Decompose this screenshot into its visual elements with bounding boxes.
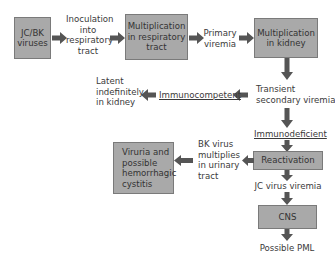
arrow-right-icon [110, 32, 125, 44]
latent-line2: indefinitely [96, 87, 144, 98]
arrow-left-icon [242, 155, 254, 166]
immunocompetent-text: Immunocompetent [159, 90, 241, 100]
primary-viremia-label: Primary viremia [203, 28, 237, 49]
inoculation-line4: tract [66, 46, 110, 57]
viruria-line1: Viruria and [122, 147, 176, 158]
inoculation-label: Inoculation into respiratory tract [66, 14, 110, 56]
viruria-line4: cystitis [122, 179, 176, 190]
transient-viremia-label: Transient secondary viremia [256, 84, 335, 105]
bk-line2: multiplies [198, 150, 240, 161]
transient-line2: secondary viremia [256, 95, 335, 106]
jc-viremia-label: JC virus viremia [251, 181, 325, 192]
mult-resp-line1: Multiplication [128, 21, 186, 32]
bk-multiplies-label: BK virus multiplies in urinary tract [198, 139, 240, 181]
arrow-left-icon [174, 155, 193, 166]
inoculation-line1: Inoculation [66, 14, 110, 25]
bk-line1: BK virus [198, 139, 240, 150]
multiplication-respiratory-box: Multiplication in respiratory tract [125, 14, 188, 60]
primary-viremia-line2: viremia [203, 39, 237, 50]
jcbk-viruses-box: JC/BK viruses [14, 17, 51, 59]
viruria-line3: hemorrhagic [122, 168, 176, 179]
mult-kidney-line1: Multiplication [257, 28, 315, 39]
bk-line4: tract [198, 171, 240, 182]
arrow-down-icon [281, 108, 293, 128]
inoculation-line2: into [66, 25, 110, 36]
arrow-down-icon [281, 229, 293, 241]
pml-text: Possible PML [260, 243, 315, 253]
latent-line3: in kidney [96, 97, 144, 108]
transient-line1: Transient [256, 84, 335, 95]
bk-line3: in urinary [198, 160, 240, 171]
cns-box: CNS [258, 205, 317, 229]
arrow-right-icon [52, 32, 67, 44]
arrow-down-icon [281, 192, 293, 205]
mult-resp-line2: in respiratory [128, 32, 186, 43]
viruria-line2: possible [122, 158, 176, 169]
immunocompetent-label: Immunocompetent [159, 90, 241, 101]
arrow-down-icon [281, 58, 293, 80]
reactivation-text: Reactivation [261, 155, 314, 166]
immunodeficient-label: Immunodeficient [254, 129, 327, 140]
latent-label: Latent indefinitely in kidney [96, 76, 144, 108]
jcbk-line2: viruses [17, 38, 48, 49]
multiplication-kidney-box: Multiplication in kidney [254, 18, 318, 58]
primary-viremia-line1: Primary [203, 28, 237, 39]
jcbk-line1: JC/BK [17, 28, 48, 39]
mult-kidney-line2: in kidney [257, 38, 315, 49]
arrow-right-icon [239, 32, 254, 44]
arrow-down-icon [281, 170, 293, 181]
cns-text: CNS [279, 212, 297, 223]
immunodeficient-text: Immunodeficient [254, 129, 327, 139]
inoculation-line3: respiratory [66, 35, 110, 46]
viruria-box: Viruria and possible hemorrhagic cystiti… [113, 142, 174, 194]
latent-line1: Latent [96, 76, 144, 87]
arrow-right-icon [189, 32, 204, 44]
mult-resp-line3: tract [128, 42, 186, 53]
possible-pml-label: Possible PML [254, 243, 320, 254]
jc-viremia-text: JC virus viremia [254, 181, 321, 191]
reactivation-box: Reactivation [253, 151, 323, 170]
